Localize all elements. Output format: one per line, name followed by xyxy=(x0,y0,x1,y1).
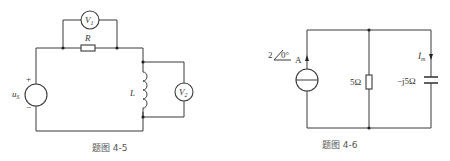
arrow-down-icon xyxy=(429,54,433,60)
junction-dot xyxy=(141,115,144,118)
resistor-5ohm-label: 5Ω xyxy=(350,77,362,87)
inductor-l-label: L xyxy=(129,88,135,98)
source-plus-sign: + xyxy=(26,74,31,84)
figure-4-6: 2 0° A 5Ω −j5Ω İm 题图 4-6 xyxy=(268,28,438,150)
junction-dot xyxy=(61,46,64,49)
arrow-up-icon xyxy=(305,55,309,61)
junction-dot xyxy=(141,60,144,63)
junction-dot xyxy=(115,46,118,49)
figure-caption-4-6: 题图 4-6 xyxy=(322,140,358,150)
source-label: uS xyxy=(12,89,20,100)
junction-dot xyxy=(367,28,370,31)
main-loop-wire xyxy=(36,48,143,131)
figure-4-5: R V1 + − uS L V2 题图 4-5 xyxy=(12,11,193,153)
resistor-r xyxy=(81,45,95,51)
figure-caption-4-5: 题图 4-5 xyxy=(92,143,128,153)
source-minus-sign: − xyxy=(26,102,31,112)
current-im-label: İm xyxy=(417,51,426,62)
resistor-5ohm xyxy=(366,75,372,89)
capacitor-label: −j5Ω xyxy=(397,76,416,86)
current-source-angle: 0° xyxy=(281,50,290,60)
current-source-magnitude: 2 xyxy=(268,50,273,60)
resistor-r-label: R xyxy=(84,33,91,43)
junction-dot xyxy=(367,126,370,129)
circuit-diagrams: R V1 + − uS L V2 题图 4-5 2 0° A xyxy=(0,0,450,161)
current-source-unit: A xyxy=(295,55,302,65)
